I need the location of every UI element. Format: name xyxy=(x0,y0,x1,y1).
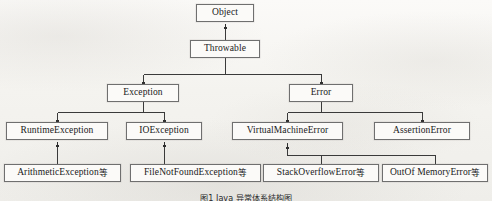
class-box-file-not-found-exception-suffix: 等 xyxy=(238,169,247,178)
class-box-stack-overflow-error-label: StackOverflowError xyxy=(277,168,356,178)
class-box-assertion-error[interactable]: AssertionError xyxy=(374,122,470,140)
class-box-arithmetic-exception[interactable]: ArithmeticException等 xyxy=(4,164,121,182)
exception-hierarchy-diagram: Object Throwable Exception Error Runtime… xyxy=(0,0,492,201)
class-box-exception[interactable]: Exception xyxy=(107,84,179,102)
class-box-out-of-memory-error-suffix: 等 xyxy=(471,169,480,178)
class-box-error-label: Error xyxy=(311,88,332,98)
class-box-throwable-label: Throwable xyxy=(204,44,246,54)
class-box-arithmetic-exception-suffix: 等 xyxy=(99,169,108,178)
class-box-object[interactable]: Object xyxy=(196,4,254,22)
class-box-virtual-machine-error[interactable]: VirtualMachineError xyxy=(232,122,343,140)
class-box-assertion-error-label: AssertionError xyxy=(393,126,451,136)
class-box-out-of-memory-error[interactable]: OutOf MemoryError等 xyxy=(382,164,488,182)
class-box-stack-overflow-error-suffix: 等 xyxy=(356,169,365,178)
class-box-io-exception[interactable]: IOException xyxy=(126,122,202,140)
class-box-object-label: Object xyxy=(212,8,238,18)
class-box-virtual-machine-error-label: VirtualMachineError xyxy=(247,126,329,136)
figure-caption-text: 图1 Java 异常体系结构图 xyxy=(200,192,291,201)
class-box-stack-overflow-error[interactable]: StackOverflowError等 xyxy=(263,164,379,182)
class-box-runtime-exception-label: RuntimeException xyxy=(21,126,94,136)
class-box-file-not-found-exception-label: FileNotFoundException xyxy=(144,168,238,178)
class-box-out-of-memory-error-label: OutOf MemoryError xyxy=(390,168,471,178)
class-box-io-exception-label: IOException xyxy=(139,126,189,136)
class-box-arithmetic-exception-label: ArithmeticException xyxy=(17,168,99,178)
class-box-error[interactable]: Error xyxy=(289,84,353,102)
class-box-exception-label: Exception xyxy=(123,88,162,98)
class-box-runtime-exception[interactable]: RuntimeException xyxy=(6,122,108,140)
class-box-file-not-found-exception[interactable]: FileNotFoundException等 xyxy=(130,164,261,182)
figure-caption: 图1 Java 异常体系结构图 xyxy=(0,192,492,201)
class-box-throwable[interactable]: Throwable xyxy=(190,40,260,58)
